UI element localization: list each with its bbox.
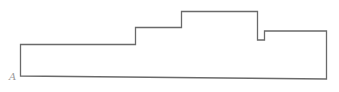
vertex-label-a: A bbox=[8, 71, 16, 82]
diagram-canvas: A bbox=[0, 0, 339, 92]
stepped-outline-shape bbox=[21, 12, 327, 80]
